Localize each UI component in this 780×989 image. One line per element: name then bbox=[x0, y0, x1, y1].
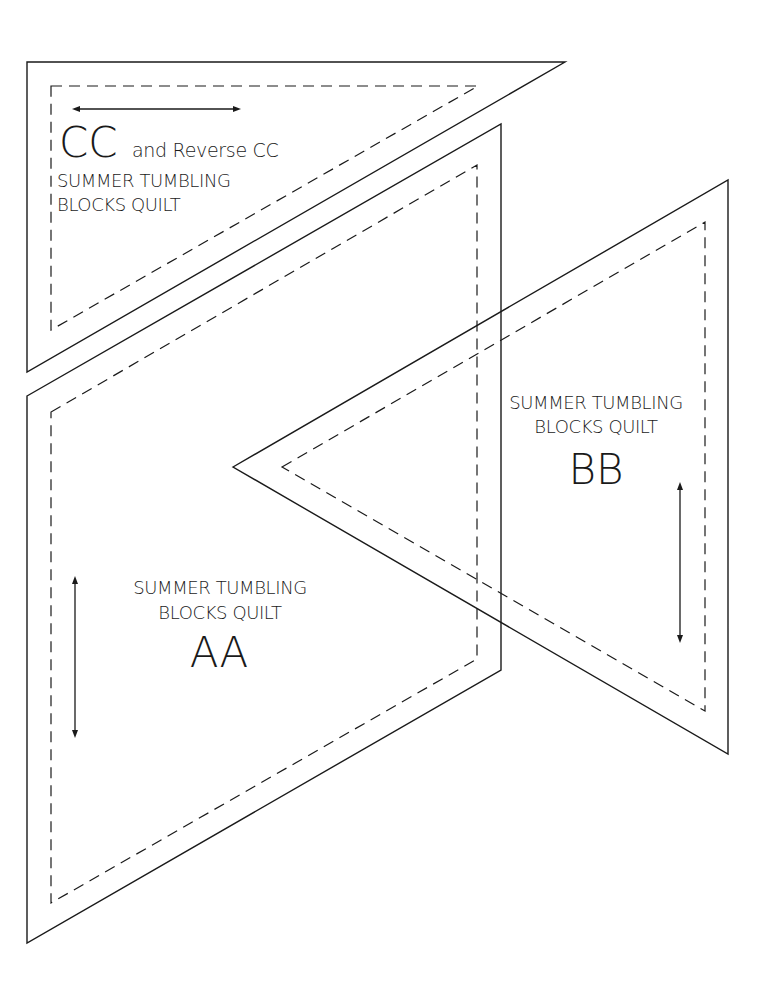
aa-seam-line bbox=[51, 165, 477, 903]
bb-line1: SUMMER TUMBLING bbox=[509, 392, 683, 413]
bb-seam-line bbox=[282, 222, 705, 711]
aa-letter: AA bbox=[190, 628, 249, 677]
bb-cut-line bbox=[233, 180, 728, 754]
bb-line2: BLOCKS QUILT bbox=[534, 416, 658, 437]
aa-grain-arrow-icon bbox=[72, 576, 78, 738]
cc-line1: SUMMER TUMBLING bbox=[57, 170, 231, 191]
bb-grain-arrow-icon bbox=[677, 482, 683, 643]
aa-line1: SUMMER TUMBLING bbox=[133, 577, 307, 598]
bb-letter: BB bbox=[568, 445, 623, 494]
template-aa: SUMMER TUMBLING BLOCKS QUILT AA bbox=[27, 124, 501, 943]
cc-grain-arrow-icon bbox=[72, 106, 241, 112]
aa-cut-line bbox=[27, 124, 501, 943]
cc-line2: BLOCKS QUILT bbox=[57, 194, 181, 215]
template-bb: SUMMER TUMBLING BLOCKS QUILT BB bbox=[233, 180, 728, 754]
template-cc: CC and Reverse CC SUMMER TUMBLING BLOCKS… bbox=[27, 62, 565, 372]
cc-letter: CC bbox=[59, 118, 118, 167]
quilt-template-sheet: CC and Reverse CC SUMMER TUMBLING BLOCKS… bbox=[0, 0, 780, 989]
aa-line2: BLOCKS QUILT bbox=[158, 602, 282, 623]
cc-suffix: and Reverse CC bbox=[132, 139, 279, 161]
